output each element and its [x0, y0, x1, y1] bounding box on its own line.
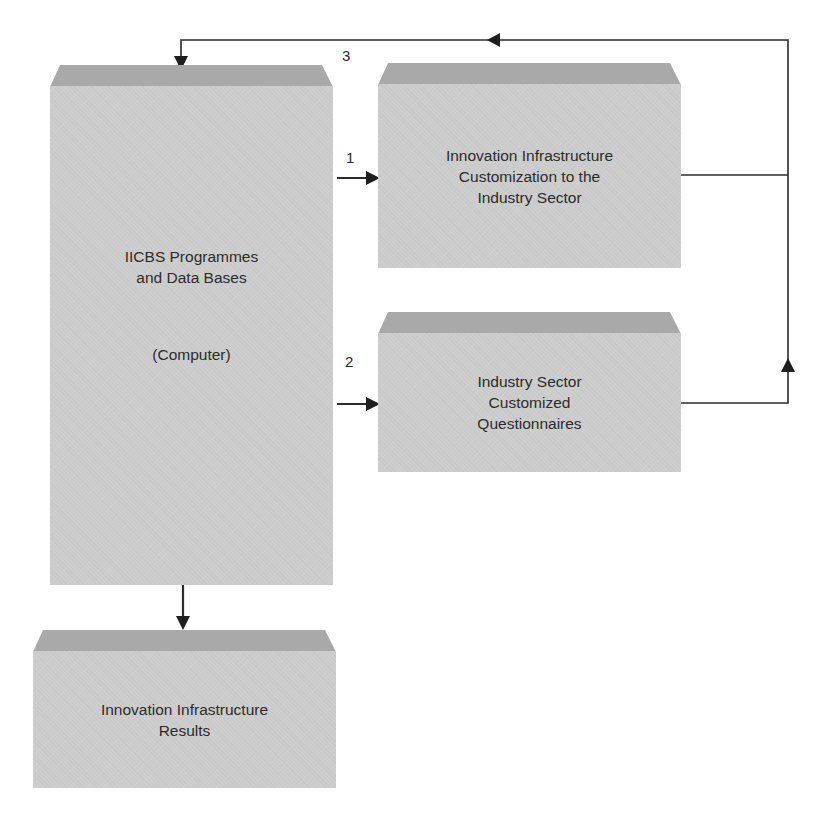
box-top-face [33, 630, 336, 652]
box-top-face [378, 312, 681, 334]
arrowhead-down-icon [176, 616, 190, 630]
box-label-line: IICBS Programmes [125, 246, 259, 267]
box-front-face: Industry Sector Customized Questionnaire… [378, 333, 681, 472]
box-top-face [50, 65, 333, 87]
box-label-line: (Computer) [152, 344, 230, 365]
arrowhead-up-icon [781, 358, 795, 372]
box-front-face: Innovation Infrastructure Results [33, 651, 336, 788]
box-questionnaires: Industry Sector Customized Questionnaire… [378, 312, 681, 472]
box-label-line: Customization to the [459, 166, 600, 187]
box-label-line: Innovation Infrastructure [101, 699, 268, 720]
box-results: Innovation Infrastructure Results [33, 630, 336, 788]
diagram-canvas: IICBS Programmes and Data Bases (Compute… [0, 0, 829, 824]
arrow-label-2: 2 [345, 353, 353, 370]
arrow-label-1: 1 [346, 149, 354, 166]
box-label-line: Industry Sector [477, 187, 581, 208]
box-top-face [378, 63, 681, 85]
box-front-face: Innovation Infrastructure Customization … [378, 84, 681, 268]
box-iicbs-programmes: IICBS Programmes and Data Bases (Compute… [50, 65, 333, 585]
box-label-line: Customized [489, 392, 571, 413]
arrowhead-left-icon [487, 33, 500, 47]
box-label-line: Questionnaires [477, 413, 581, 434]
box-customization: Innovation Infrastructure Customization … [378, 63, 681, 268]
box-label-line: and Data Bases [136, 267, 246, 288]
box-label-line: Results [159, 720, 211, 741]
box-front-face: IICBS Programmes and Data Bases (Compute… [50, 86, 333, 585]
arrow-label-3: 3 [342, 47, 350, 64]
box-label-line: Industry Sector [477, 371, 581, 392]
box-label-line: Innovation Infrastructure [446, 145, 613, 166]
